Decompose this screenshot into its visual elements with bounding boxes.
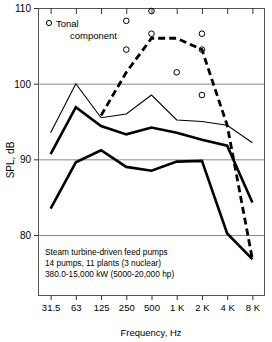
y-tick-label-100: 100 bbox=[14, 79, 31, 90]
x-tick-label-8: 8 K bbox=[246, 302, 261, 313]
x-tick-label-4: 500 bbox=[144, 302, 160, 313]
x-tick-label-0: 31.5 bbox=[42, 302, 61, 313]
y-tick-label-80: 80 bbox=[20, 230, 32, 241]
y-tick-label-90: 90 bbox=[20, 154, 32, 165]
annotation-line-3: 380.0-15,000 kW (5000-20,000 hp) bbox=[45, 269, 174, 279]
x-axis-title: Frequency, Hz bbox=[120, 327, 181, 338]
x-tick-label-7: 4 K bbox=[221, 302, 236, 313]
legend-label-line2: component bbox=[70, 30, 117, 41]
legend-label-line1: Tonal bbox=[56, 18, 79, 29]
x-tick-label-1: 63 bbox=[71, 302, 82, 313]
x-tick-label-3: 250 bbox=[119, 302, 135, 313]
x-tick-label-2: 125 bbox=[94, 302, 110, 313]
y-tick-label-110: 110 bbox=[15, 3, 31, 14]
chart-canvas: 8090100110 31.5631252505001 K2 K4 K8 K S… bbox=[0, 0, 272, 342]
x-tick-label-5: 1 K bbox=[170, 302, 185, 313]
spl-frequency-chart: 8090100110 31.5631252505001 K2 K4 K8 K S… bbox=[0, 0, 272, 342]
chart-background bbox=[0, 0, 272, 342]
y-axis-title: SPL, dB bbox=[5, 141, 16, 178]
annotation-block: Steam turbine-driven feed pumps 14 pumps… bbox=[45, 247, 174, 279]
x-tick-labels: 31.5631252505001 K2 K4 K8 K bbox=[42, 302, 261, 313]
annotation-line-1: Steam turbine-driven feed pumps bbox=[45, 247, 168, 257]
annotation-line-2: 14 pumps, 11 plants (3 nuclear) bbox=[45, 258, 161, 268]
x-tick-label-6: 2 K bbox=[195, 302, 210, 313]
